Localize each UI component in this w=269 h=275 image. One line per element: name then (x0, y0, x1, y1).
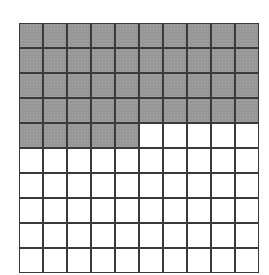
grid-cell-empty (140, 224, 162, 247)
grid-cell-shaded (20, 24, 42, 47)
grid-cell-shaded (116, 74, 138, 97)
grid-cell-empty (236, 174, 258, 197)
grid-cell-empty (68, 149, 90, 172)
grid-cell-empty (164, 174, 186, 197)
grid-cell-empty (44, 199, 66, 222)
grid-cell-empty (20, 249, 42, 272)
grid-cell-empty (236, 224, 258, 247)
grid-cell-shaded (68, 124, 90, 147)
grid-cell-empty (236, 149, 258, 172)
grid-cell-shaded (188, 99, 210, 122)
grid-cell-shaded (92, 99, 114, 122)
grid-cell-shaded (68, 99, 90, 122)
grid-cell-empty (68, 224, 90, 247)
grid-cell-empty (116, 224, 138, 247)
grid-cell-empty (140, 124, 162, 147)
grid-cell-empty (116, 149, 138, 172)
grid-cell-shaded (44, 74, 66, 97)
grid-cell-shaded (68, 49, 90, 72)
grid-cell-shaded (164, 49, 186, 72)
grid-cell-shaded (20, 49, 42, 72)
grid-cell-shaded (212, 99, 234, 122)
grid-cell-shaded (236, 24, 258, 47)
grid-cell-empty (44, 149, 66, 172)
grid-cell-shaded (236, 74, 258, 97)
grid-cell-empty (188, 199, 210, 222)
grid-cell-shaded (236, 99, 258, 122)
grid-cell-shaded (140, 99, 162, 122)
hundred-grid (19, 23, 259, 273)
grid-cell-shaded (188, 49, 210, 72)
grid-cell-empty (116, 249, 138, 272)
grid-cell-empty (20, 199, 42, 222)
grid-cell-empty (236, 249, 258, 272)
grid-cell-empty (212, 174, 234, 197)
grid-cell-shaded (92, 24, 114, 47)
grid-cell-shaded (140, 49, 162, 72)
grid-cell-empty (236, 124, 258, 147)
grid-cell-shaded (20, 74, 42, 97)
grid-cell-empty (116, 174, 138, 197)
grid-cell-empty (68, 249, 90, 272)
grid-cell-shaded (188, 74, 210, 97)
grid-cell-empty (164, 124, 186, 147)
grid-cell-shaded (116, 24, 138, 47)
grid-cell-empty (20, 149, 42, 172)
grid-cell-empty (164, 149, 186, 172)
grid-cell-empty (92, 224, 114, 247)
grid-cell-shaded (164, 99, 186, 122)
grid-cell-shaded (236, 49, 258, 72)
grid-cell-empty (164, 199, 186, 222)
grid-cell-shaded (68, 74, 90, 97)
grid-cell-empty (212, 224, 234, 247)
grid-cell-empty (44, 249, 66, 272)
grid-cell-empty (140, 174, 162, 197)
grid-cell-shaded (116, 99, 138, 122)
grid-cell-empty (92, 174, 114, 197)
grid-cell-empty (44, 224, 66, 247)
grid-cell-empty (20, 224, 42, 247)
grid-cell-empty (68, 174, 90, 197)
grid-cell-empty (92, 149, 114, 172)
grid-cell-empty (68, 199, 90, 222)
grid-cell-empty (20, 174, 42, 197)
grid-cell-empty (188, 149, 210, 172)
grid-cell-empty (164, 249, 186, 272)
grid-cell-shaded (140, 24, 162, 47)
grid-cell-empty (188, 224, 210, 247)
figure-canvas (0, 0, 269, 275)
grid-cell-shaded (92, 124, 114, 147)
grid-cell-shaded (164, 74, 186, 97)
grid-cell-empty (92, 199, 114, 222)
grid-cell-shaded (140, 74, 162, 97)
grid-cell-shaded (44, 124, 66, 147)
grid-cell-empty (140, 199, 162, 222)
grid-cell-shaded (164, 24, 186, 47)
grid-cell-shaded (20, 99, 42, 122)
grid-cell-shaded (212, 24, 234, 47)
grid-cell-shaded (44, 99, 66, 122)
grid-cell-empty (44, 174, 66, 197)
grid-cell-empty (212, 124, 234, 147)
grid-cell-empty (164, 224, 186, 247)
grid-cell-empty (188, 174, 210, 197)
grid-cell-empty (212, 249, 234, 272)
grid-cell-shaded (212, 74, 234, 97)
grid-cell-empty (212, 199, 234, 222)
grid-cell-empty (188, 124, 210, 147)
grid-cell-empty (92, 249, 114, 272)
grid-cell-empty (236, 199, 258, 222)
grid-cell-shaded (44, 49, 66, 72)
grid-cell-shaded (92, 49, 114, 72)
grid-cell-shaded (212, 49, 234, 72)
grid-cell-empty (140, 149, 162, 172)
grid-cell-shaded (20, 124, 42, 147)
grid-cell-empty (212, 149, 234, 172)
grid-cell-shaded (188, 24, 210, 47)
grid-cell-shaded (44, 24, 66, 47)
grid-cell-shaded (116, 49, 138, 72)
grid-cell-shaded (116, 124, 138, 147)
grid-cell-empty (188, 249, 210, 272)
grid-cell-empty (140, 249, 162, 272)
grid-cell-shaded (68, 24, 90, 47)
